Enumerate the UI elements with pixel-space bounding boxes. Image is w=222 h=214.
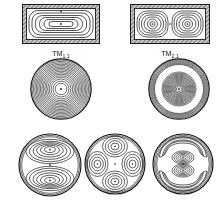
tm-mode-figure: TM1,1	[0, 0, 222, 214]
panel-tm11-rectangular: TM1,1	[22, 4, 100, 44]
panel-tm21-circular: TM2,1	[84, 133, 146, 195]
panel-tm01-circular: TM0,1	[24, 58, 98, 120]
panel-tm12-circular: TM1,2	[152, 133, 214, 195]
panel-tm11-circular: TM1,1	[18, 133, 82, 197]
panel-tm21-rectangular: TM2,1	[130, 4, 210, 44]
caption-tm11-rectangular: TM1,1	[22, 50, 100, 57]
panel-tm02-circular: TM0,2	[148, 58, 210, 120]
caption-tm21-rectangular: TM2,1	[130, 50, 210, 57]
